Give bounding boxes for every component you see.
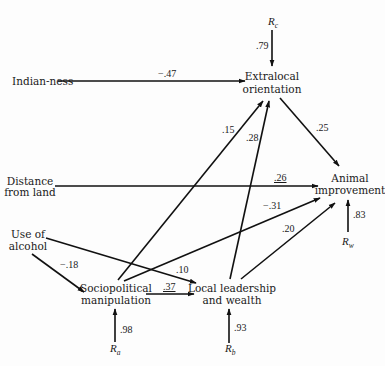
node-extralocal-line1: Extralocal xyxy=(245,70,300,82)
coef-sociopolitical-animal: −.31 xyxy=(263,200,281,211)
node-alcohol-line2: alcohol xyxy=(9,240,48,252)
residual-rc: Rc xyxy=(267,15,279,30)
node-sociopolitical-line1: Sociopolitical xyxy=(80,282,153,294)
coef-ra: .98 xyxy=(120,324,133,335)
node-alcohol-line1: Use of xyxy=(11,228,46,240)
coef-extralocal-animal: .25 xyxy=(316,122,329,133)
node-extralocal-line2: orientation xyxy=(243,83,302,95)
coef-indianness-extralocal: −.47 xyxy=(158,68,176,79)
coef-alcohol-sociopolitical: −.18 xyxy=(60,259,78,270)
node-local-line2: and wealth xyxy=(203,294,262,306)
node-animal-line1: Animal xyxy=(330,172,369,184)
coef-distance-animal: .26 xyxy=(274,172,287,183)
path-local-animal xyxy=(241,203,335,279)
node-sociopolitical-line2: manipulation xyxy=(81,294,151,306)
residual-rw: Rw xyxy=(341,235,354,250)
path-extralocal-animal xyxy=(280,98,339,166)
coef-local-extralocal: .28 xyxy=(246,132,259,143)
coef-local-animal: .20 xyxy=(282,223,295,234)
coef-sociopolitical-extralocal: .15 xyxy=(222,124,235,135)
coef-sociopolitical-local: .37 xyxy=(163,281,176,292)
coef-rb: .93 xyxy=(234,322,247,333)
coef-rc: .79 xyxy=(256,40,269,51)
path-diagram: Indian-ness Extralocal orientation Dista… xyxy=(0,0,385,366)
coef-rw: .83 xyxy=(353,209,366,220)
residual-rb: Rb xyxy=(224,342,236,357)
coef-alcohol-local: .10 xyxy=(176,264,189,275)
node-animal-line2: improvement xyxy=(315,184,385,196)
residual-ra: Ra xyxy=(109,342,121,357)
path-local-extralocal xyxy=(230,101,269,279)
node-distance-line2: from land xyxy=(4,186,56,198)
node-local-line1: Local leadership xyxy=(188,282,276,294)
